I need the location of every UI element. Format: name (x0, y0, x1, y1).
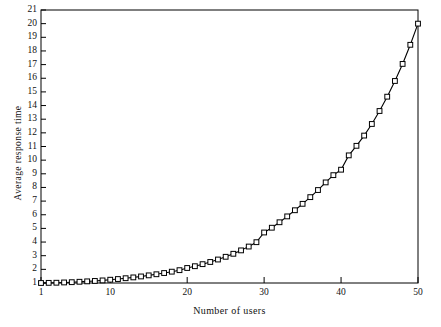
y-tick-label: 8 (15, 182, 37, 192)
y-tick-label: 20 (15, 19, 37, 29)
y-tick-label: 5 (15, 223, 37, 233)
y-tick-label: 7 (15, 196, 37, 206)
x-axis-title: Number of users (41, 305, 418, 316)
y-tick-label: 6 (15, 210, 37, 220)
y-tick-label: 13 (15, 114, 37, 124)
x-tick-label: 30 (249, 287, 279, 297)
y-tick-label: 16 (15, 73, 37, 83)
x-tick-label: 10 (95, 287, 125, 297)
y-axis-tick-labels: 123456789101112131415161718192021 (12, 0, 37, 327)
data-series-line (41, 24, 418, 283)
y-tick-label: 17 (15, 60, 37, 70)
chart-figure: Average response time Number of users 12… (0, 0, 441, 327)
y-tick-label: 10 (15, 155, 37, 165)
data-series-markers (39, 21, 421, 285)
y-tick-label: 14 (15, 101, 37, 111)
y-tick-label: 11 (15, 142, 37, 152)
y-tick-label: 21 (15, 5, 37, 15)
x-tick-label: 40 (326, 287, 356, 297)
y-tick-label: 18 (15, 46, 37, 56)
axis-frame (41, 10, 418, 283)
y-tick-label: 12 (15, 128, 37, 138)
y-tick-label: 2 (15, 264, 37, 274)
x-tick-label: 1 (26, 287, 56, 297)
axis-ticks (41, 10, 418, 283)
x-tick-label: 20 (172, 287, 202, 297)
y-tick-label: 9 (15, 169, 37, 179)
y-tick-label: 4 (15, 237, 37, 247)
y-tick-label: 19 (15, 32, 37, 42)
y-tick-label: 3 (15, 251, 37, 261)
x-tick-label: 50 (403, 287, 433, 297)
y-tick-label: 15 (15, 87, 37, 97)
plot-area (0, 0, 441, 327)
